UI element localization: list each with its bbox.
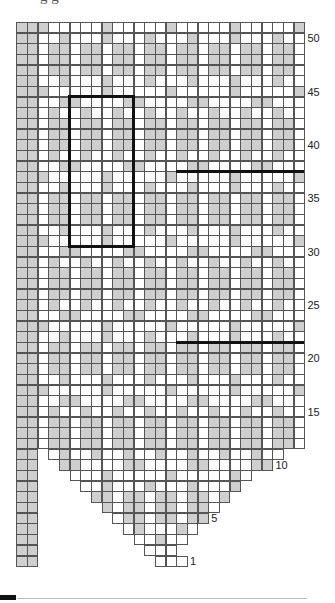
chart-cell	[272, 385, 283, 396]
chart-cell	[48, 161, 59, 172]
chart-cell	[144, 395, 155, 406]
chart-cell	[198, 43, 209, 54]
chart-cell	[187, 171, 198, 182]
chart-cell	[80, 289, 91, 300]
chart-cell	[208, 363, 219, 374]
chart-cell	[198, 171, 209, 182]
chart-cell	[27, 556, 38, 567]
chart-cell	[144, 97, 155, 108]
chart-cell	[70, 310, 81, 321]
chart-cell	[166, 171, 177, 182]
chart-cell	[48, 417, 59, 428]
chart-cell	[198, 395, 209, 406]
chart-cell	[112, 257, 123, 268]
chart-cell	[262, 214, 273, 225]
chart-cell	[70, 470, 81, 481]
chart-cell	[176, 171, 187, 182]
chart-cell	[16, 118, 27, 129]
chart-cell	[16, 246, 27, 257]
chart-cell	[283, 246, 294, 257]
chart-cell	[91, 267, 102, 278]
chart-cell	[123, 395, 134, 406]
chart-cell	[155, 459, 166, 470]
chart-cell	[155, 86, 166, 97]
chart-cell	[70, 289, 81, 300]
chart-cell	[38, 203, 49, 214]
chart-cell	[155, 33, 166, 44]
chart-cell	[155, 491, 166, 502]
chart-cell	[59, 65, 70, 76]
chart-cell	[38, 75, 49, 86]
chart-cell	[144, 75, 155, 86]
chart-cell	[240, 374, 251, 385]
chart-cell	[102, 470, 113, 481]
chart-cell	[80, 65, 91, 76]
chart-cell	[251, 203, 262, 214]
chart-cell	[123, 54, 134, 65]
chart-cell	[166, 22, 177, 33]
chart-cell	[123, 289, 134, 300]
chart-cell	[16, 481, 27, 492]
chart-cell	[176, 107, 187, 118]
chart-cell	[155, 395, 166, 406]
chart-cell	[134, 459, 145, 470]
chart-cell	[16, 342, 27, 353]
chart-cell	[230, 246, 241, 257]
chart-cell	[16, 86, 27, 97]
chart-cell	[176, 502, 187, 513]
chart-cell	[187, 406, 198, 417]
chart-cell	[134, 97, 145, 108]
chart-cell	[123, 267, 134, 278]
chart-cell	[198, 459, 209, 470]
chart-cell	[27, 33, 38, 44]
chart-cell	[272, 225, 283, 236]
chart-cell	[16, 139, 27, 150]
chart-cell	[187, 395, 198, 406]
chart-cell	[230, 374, 241, 385]
chart-cell	[283, 150, 294, 161]
chart-cell	[48, 353, 59, 364]
chart-cell	[144, 246, 155, 257]
chart-cell	[251, 395, 262, 406]
chart-cell	[294, 267, 305, 278]
row-number-label: 45	[307, 87, 319, 98]
chart-cell	[208, 54, 219, 65]
chart-cell	[112, 75, 123, 86]
chart-cell	[187, 54, 198, 65]
chart-cell	[112, 22, 123, 33]
chart-cell	[144, 139, 155, 150]
chart-cell	[48, 278, 59, 289]
chart-cell	[262, 257, 273, 268]
chart-cell	[251, 289, 262, 300]
chart-cell	[176, 299, 187, 310]
chart-cell	[155, 470, 166, 481]
chart-cell	[102, 65, 113, 76]
chart-cell	[283, 299, 294, 310]
chart-cell	[16, 278, 27, 289]
chart-cell	[272, 310, 283, 321]
chart-cell	[48, 289, 59, 300]
chart-cell	[80, 278, 91, 289]
chart-cell	[166, 321, 177, 332]
chart-cell	[16, 289, 27, 300]
chart-cell	[219, 171, 230, 182]
chart-cell	[187, 459, 198, 470]
chart-cell	[219, 193, 230, 204]
chart-cell	[240, 449, 251, 460]
chart-cell	[262, 235, 273, 246]
chart-cell	[283, 363, 294, 374]
chart-cell	[166, 161, 177, 172]
chart-cell	[155, 502, 166, 513]
chart-cell	[112, 342, 123, 353]
chart-cell	[251, 438, 262, 449]
chart-cell	[144, 214, 155, 225]
chart-cell	[283, 278, 294, 289]
chart-cell	[166, 75, 177, 86]
chart-cell	[27, 289, 38, 300]
chart-cell	[283, 129, 294, 140]
chart-cell	[48, 246, 59, 257]
chart-cell	[123, 65, 134, 76]
chart-cell	[283, 203, 294, 214]
chart-cell	[59, 449, 70, 460]
chart-cell	[294, 193, 305, 204]
